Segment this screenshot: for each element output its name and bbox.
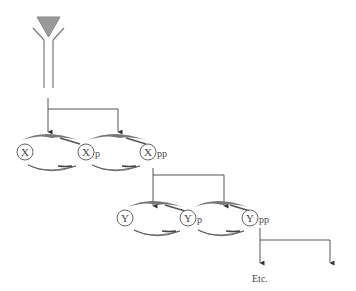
continuation-label: Etc.: [252, 273, 268, 284]
svg-text:p: p: [95, 148, 100, 159]
svg-text:X: X: [144, 146, 152, 158]
svg-text:X: X: [21, 146, 29, 158]
svg-text:Y: Y: [246, 212, 254, 224]
node-x: X: [17, 144, 33, 160]
svg-text:Y: Y: [184, 212, 192, 224]
node-xpp: X pp: [140, 144, 167, 160]
svg-text:Y: Y: [121, 212, 129, 224]
cycle-y-1: [128, 201, 185, 236]
node-y: Y: [117, 210, 133, 226]
svg-text:pp: pp: [259, 214, 269, 225]
antibody-icon: [33, 17, 64, 88]
node-ypp: Y pp: [242, 210, 269, 226]
svg-text:X: X: [82, 146, 90, 158]
branch-arrows-level1: [48, 98, 118, 132]
branch-arrows-level2: [153, 168, 224, 206]
cascade-diagram: X X p X pp Y Y p Y pp: [0, 0, 356, 291]
branch-arrows-level3: [260, 228, 330, 263]
svg-text:pp: pp: [157, 148, 167, 159]
svg-text:p: p: [197, 214, 202, 225]
node-yp: Y p: [180, 210, 202, 226]
node-xp: X p: [78, 144, 100, 160]
